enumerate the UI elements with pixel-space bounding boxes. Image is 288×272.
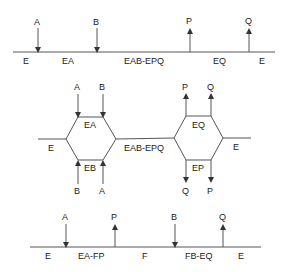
label-b-top: B: [99, 82, 105, 92]
label-a-bottom: A: [99, 186, 105, 196]
state-eab-epq-mid: EAB-EPQ: [124, 143, 164, 153]
state-ea-fp: EA-FP: [78, 251, 105, 261]
label-b-pp: B: [171, 212, 177, 222]
label-p-bottom: P: [207, 186, 213, 196]
label-p-top: P: [182, 82, 188, 92]
label-a-pp: A: [62, 212, 68, 222]
state-ep-mid: EP: [192, 163, 204, 173]
state-eab-epq: EAB-EPQ: [124, 56, 164, 66]
label-q-bottom: Q: [182, 186, 189, 196]
label-q-top: Q: [207, 82, 214, 92]
state-eq-mid: EQ: [192, 120, 205, 130]
label-q: Q: [245, 16, 252, 26]
state-eb-mid: EB: [84, 163, 96, 173]
state-fb-eq: FB-EQ: [185, 251, 213, 261]
label-p-pp: P: [111, 212, 117, 222]
state-e-start-pp: E: [45, 251, 51, 261]
label-a-top: A: [74, 82, 80, 92]
state-e-end-pp: E: [238, 251, 244, 261]
state-e-start: E: [23, 56, 29, 66]
label-b-bottom: B: [74, 186, 80, 196]
central-line: [116, 138, 174, 139]
state-e-end: E: [259, 56, 265, 66]
ping-pong-scheme: A P B Q E EA-FP F FB-EQ E: [30, 212, 261, 261]
state-f: F: [142, 251, 148, 261]
ordered-scheme: A B P Q E EA EAB-EPQ EQ E: [13, 16, 275, 66]
state-eq: EQ: [213, 56, 226, 66]
label-a: A: [34, 17, 40, 27]
state-ea: EA: [62, 56, 74, 66]
random-scheme: A B B A EA EB E EAB-EPQ P Q Q P EQ EP E: [38, 82, 251, 196]
state-e-right: E: [233, 142, 239, 152]
enzyme-kinetics-diagram: A B P Q E EA EAB-EPQ EQ E A B B A EA EB …: [0, 0, 288, 272]
state-ea-mid: EA: [84, 120, 96, 130]
label-b: B: [93, 17, 99, 27]
label-p: P: [186, 16, 192, 26]
label-q-pp: Q: [219, 212, 226, 222]
state-e-left: E: [48, 143, 54, 153]
